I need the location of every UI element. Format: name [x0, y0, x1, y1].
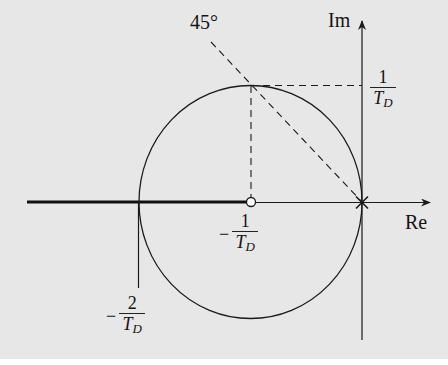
fraction-sign: −	[106, 306, 116, 327]
real-axis-label: Re	[405, 212, 427, 232]
root-locus-plot	[0, 0, 448, 365]
figure-canvas: Im Re 45° 1 TD − 1 TD − 2 TD	[0, 0, 448, 365]
fraction-numerator: 2	[128, 294, 137, 313]
fraction-denominator: TD	[373, 88, 392, 113]
fraction-denominator: TD	[122, 314, 141, 339]
imaginary-axis-label: Im	[328, 10, 350, 30]
zero-marker	[247, 198, 256, 207]
fraction-sign: −	[219, 224, 229, 245]
fraction-numerator: 1	[379, 68, 388, 87]
label-minus-two-over-td: − 2 TD	[106, 294, 145, 339]
label-minus-one-over-td: − 1 TD	[219, 212, 258, 257]
label-plus-one-over-td: 1 TD	[370, 68, 396, 113]
fraction-denominator: TD	[235, 232, 254, 257]
angle-label: 45°	[190, 12, 218, 32]
dashed-45-degree-line	[211, 42, 362, 202]
fraction-numerator: 1	[241, 212, 250, 231]
